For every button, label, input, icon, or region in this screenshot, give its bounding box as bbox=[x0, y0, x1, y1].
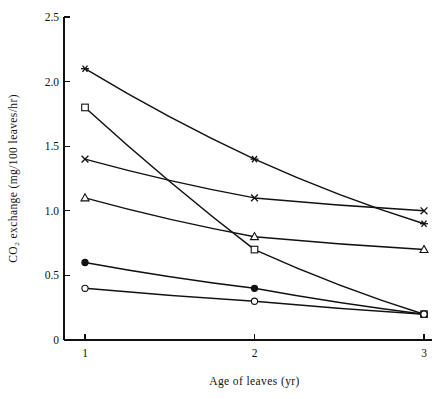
x-axis-tick-label: 2 bbox=[252, 347, 258, 359]
open-triangle-marker bbox=[81, 194, 89, 201]
open-square-marker bbox=[82, 104, 89, 111]
series-line bbox=[85, 69, 424, 224]
series-open-triangle bbox=[81, 194, 428, 253]
line-chart: 00.51.01.52.02.5123Age of leaves (yr)CO₂… bbox=[0, 0, 439, 399]
y-axis-tick-label: 2.0 bbox=[45, 76, 60, 88]
x-axis-tick-label: 1 bbox=[82, 347, 88, 359]
series-line bbox=[85, 198, 424, 250]
open-circle-marker bbox=[82, 285, 88, 291]
filled-circle-marker bbox=[251, 285, 257, 291]
x-axis-tick-label: 3 bbox=[421, 347, 427, 359]
series-asterisk bbox=[81, 66, 428, 227]
x-axis-title: Age of leaves (yr) bbox=[209, 375, 300, 388]
y-axis-tick-label: 1.5 bbox=[45, 140, 60, 152]
axis-labels-group: 00.51.01.52.02.5123Age of leaves (yr)CO₂… bbox=[7, 11, 427, 388]
y-axis-title: CO₂ exchange (mg/100 leaves/hr) bbox=[7, 94, 20, 263]
y-axis-tick-label: 2.5 bbox=[45, 11, 60, 23]
open-square-marker bbox=[251, 246, 258, 253]
open-circle-marker bbox=[251, 298, 257, 304]
asterisk-marker bbox=[420, 221, 428, 227]
series-filled-circle bbox=[82, 259, 427, 317]
y-axis-tick-label: 1.0 bbox=[45, 205, 60, 217]
series-line bbox=[85, 159, 424, 211]
filled-circle-marker bbox=[82, 259, 88, 265]
y-axis-tick-label: 0.5 bbox=[45, 269, 60, 281]
chart-container: 00.51.01.52.02.5123Age of leaves (yr)CO₂… bbox=[0, 0, 439, 399]
series-group bbox=[81, 66, 428, 318]
asterisk-marker bbox=[251, 156, 259, 162]
series-cross bbox=[82, 156, 428, 214]
open-circle-marker bbox=[421, 311, 427, 317]
y-axis-tick-label: 0 bbox=[53, 334, 59, 346]
